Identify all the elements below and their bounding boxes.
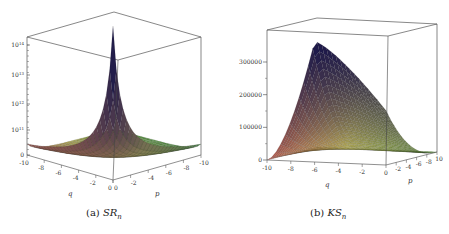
q-tick-label: -4 [335, 167, 341, 174]
z-tick-label: 0 [258, 156, 262, 163]
caption-b-symbol: KS [327, 207, 341, 218]
box-edge [317, 18, 437, 24]
box-edge [267, 30, 388, 36]
q-tick-label: -2 [359, 168, 365, 175]
q-tick-label: -6 [55, 169, 61, 176]
surface [27, 26, 201, 157]
q-axis-label: q [68, 190, 73, 198]
p-tick-label: -10 [199, 159, 209, 166]
q-tick-label: -10 [19, 159, 29, 166]
q-tick-label: -10 [262, 164, 272, 171]
caption-b-sub: n [342, 213, 347, 221]
q-tick-label: -6 [312, 166, 318, 173]
q-tick-label: -2 [90, 179, 96, 186]
p-tick-label: -4 [405, 163, 411, 170]
p-tick-label: 0 [114, 184, 118, 191]
box-edge [27, 37, 118, 60]
p-tick-label: -8 [426, 158, 432, 165]
surface [267, 42, 437, 160]
q-tick-label: -8 [38, 164, 44, 171]
q-tick-label: -8 [288, 165, 294, 172]
z-tick-label: 1013 [11, 71, 24, 78]
figure: 01011101210131014-10-8-6-4-200-2-4-6-8-1… [0, 0, 449, 234]
z-tick-label: 0 [20, 151, 24, 158]
p-axis-label: p [155, 190, 160, 198]
z-tick-label: 1011 [11, 126, 24, 133]
z-tick-label: 100000 [239, 123, 262, 130]
p-tick-label: 10 [435, 155, 443, 162]
p-tick-label: -2 [131, 179, 137, 186]
z-tick-label: 1012 [11, 100, 24, 107]
box-edge [114, 12, 201, 37]
q-tick-label: -4 [73, 174, 79, 181]
p-axis-label: p [408, 177, 413, 185]
plot-sr-n: 01011101210131014-10-8-6-4-200-2-4-6-8-1… [11, 12, 209, 198]
box-edge [267, 18, 317, 30]
p-tick-label: -2 [395, 165, 401, 172]
caption-a: (a) SRn [86, 207, 122, 221]
q-tick-label: 0 [108, 184, 112, 191]
z-tick-label: 1014 [11, 41, 24, 48]
box-edge [118, 37, 201, 60]
plot-ks-n: 0100000200000300000-10-8-6-4-20-2-4-6-81… [239, 18, 443, 189]
box-edge [388, 24, 437, 36]
q-tick-label: 0 [384, 169, 388, 176]
z-tick-label: 300000 [239, 58, 262, 65]
q-axis-line [267, 160, 386, 165]
caption-a-label: (a) [86, 207, 100, 218]
caption-b: (b) KSn [310, 207, 346, 221]
p-tick-label: -8 [183, 164, 189, 171]
box-edge [27, 12, 114, 37]
q-axis-label: q [325, 181, 330, 189]
p-tick-label: -6 [166, 169, 172, 176]
p-tick-label: -4 [148, 174, 154, 181]
caption-b-label: (b) [310, 207, 324, 218]
caption-a-symbol: SR [103, 207, 117, 218]
p-tick-label: -6 [416, 160, 422, 167]
caption-a-sub: n [117, 213, 122, 221]
z-tick-label: 200000 [239, 91, 262, 98]
